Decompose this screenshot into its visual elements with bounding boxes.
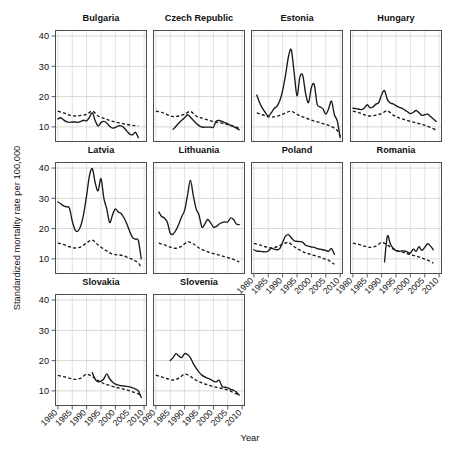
y-tick-label: 10	[39, 386, 49, 396]
x-axis-title: Year	[241, 432, 260, 443]
y-tick-label: 30	[39, 326, 49, 336]
panel-title: Bulgaria	[83, 13, 121, 23]
y-tick-label: 20	[39, 92, 49, 102]
small-multiples-chart: BulgariaCzech RepublicEstoniaHungaryLatv…	[0, 0, 455, 454]
y-tick-label: 40	[39, 295, 49, 305]
y-tick-label: 20	[39, 356, 49, 366]
panel-title: Czech Republic	[165, 13, 233, 23]
y-tick-label: 10	[39, 254, 49, 264]
panel-title: Romania	[377, 145, 417, 155]
panel-title: Hungary	[377, 13, 415, 23]
y-tick-label: 40	[39, 31, 49, 41]
panel-title: Latvia	[88, 145, 115, 155]
panel-title: Poland	[282, 145, 313, 155]
panel-title: Lithuania	[179, 145, 221, 155]
y-tick-label: 30	[39, 62, 49, 72]
y-tick-label: 40	[39, 163, 49, 173]
chart-figure-root: BulgariaCzech RepublicEstoniaHungaryLatv…	[0, 0, 455, 454]
panel-title: Slovakia	[82, 277, 120, 287]
panel-title: Slovenia	[180, 277, 219, 287]
y-tick-label: 20	[39, 224, 49, 234]
y-axis-title: Standardized mortality rate per 100,000	[11, 146, 22, 311]
panel-title: Estonia	[280, 13, 314, 23]
y-tick-label: 30	[39, 194, 49, 204]
y-tick-label: 10	[39, 122, 49, 132]
